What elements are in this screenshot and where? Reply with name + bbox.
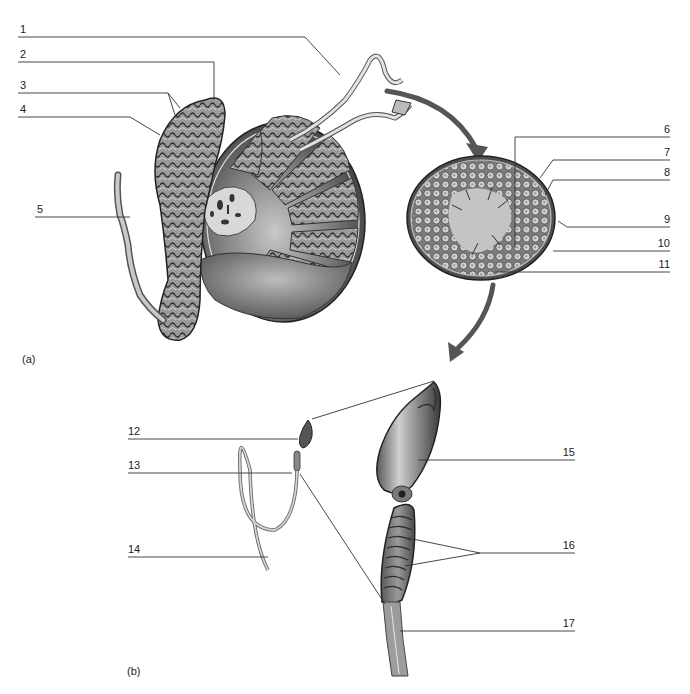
callout-17: 17 [545,617,575,629]
arrow-to-sperm [448,285,493,362]
callout-12: 12 [128,425,140,437]
callout-14: 14 [128,543,140,555]
callout-16: 16 [545,539,575,551]
callout-7: 7 [640,146,670,158]
callout-15: 15 [545,446,575,458]
callout-10: 10 [640,237,670,249]
testis-illustration [117,56,411,340]
zoom-line-bottom [300,474,385,604]
tubule-cross-section [407,156,555,280]
callout-4: 4 [20,103,26,115]
panel-label-b: (b) [127,665,140,677]
sperm-enlarged [377,382,441,676]
callout-2: 2 [20,48,26,60]
callout-8: 8 [640,166,670,178]
diagram-svg [0,0,690,694]
callout-6: 6 [640,123,670,135]
callout-1: 1 [20,23,26,35]
callout-9: 9 [640,213,670,225]
panel-label-a: (a) [22,353,35,365]
callout-11: 11 [640,258,670,270]
whole-sperm [240,420,312,570]
anatomy-diagram: 1 2 3 4 5 6 7 8 9 10 11 12 13 14 15 16 1… [0,0,690,694]
callout-5: 5 [37,203,43,215]
callout-13: 13 [128,459,140,471]
callout-3: 3 [20,79,26,91]
